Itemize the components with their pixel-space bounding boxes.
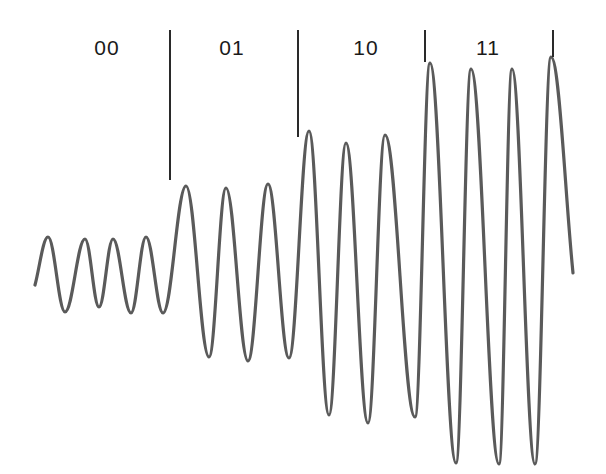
symbol-label-00: 00 [94, 36, 119, 60]
symbol-label-10: 10 [353, 36, 378, 60]
divider-3 [424, 30, 426, 62]
waveform-diagram [0, 0, 606, 474]
divider-2 [297, 30, 299, 137]
modulated-signal-wave [35, 57, 573, 464]
symbol-label-01: 01 [219, 36, 244, 60]
divider-1 [169, 30, 171, 180]
symbol-label-11: 11 [476, 36, 500, 60]
divider-4 [552, 30, 554, 57]
